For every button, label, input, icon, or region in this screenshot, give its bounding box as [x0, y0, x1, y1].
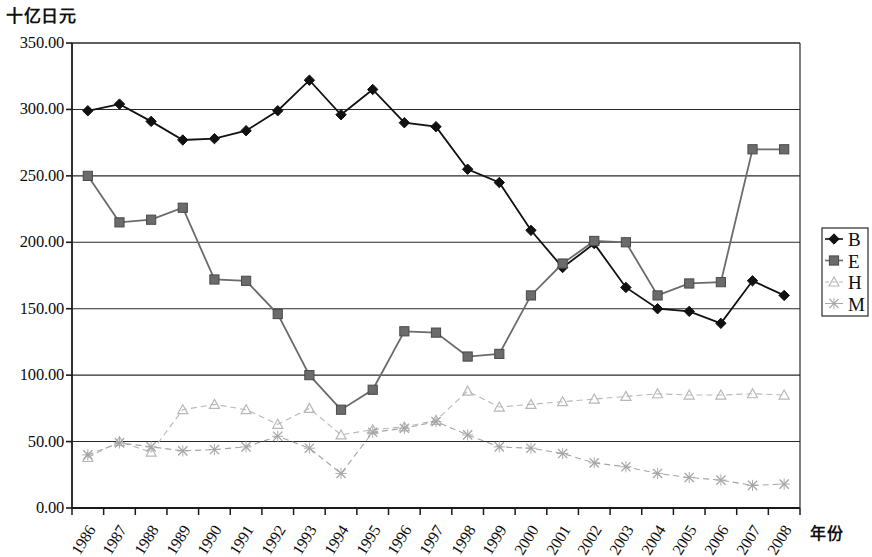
y-tick-label: 200.00	[0, 232, 64, 252]
y-tick-label: 300.00	[0, 99, 64, 119]
series-line	[88, 149, 784, 409]
data-point-x	[114, 437, 125, 448]
data-point-x	[747, 480, 758, 491]
data-point-x	[828, 298, 839, 309]
chart-container: 十亿日元 年份 350.00300.00250.00200.00150.0010…	[0, 0, 872, 557]
data-point-square	[780, 145, 789, 154]
data-point-square	[400, 327, 409, 336]
data-point-x	[240, 441, 251, 452]
data-point-diamond	[652, 304, 662, 314]
data-point-square	[431, 328, 440, 337]
data-point-x	[367, 427, 378, 438]
data-point-x	[82, 449, 93, 460]
data-point-x	[399, 423, 410, 434]
data-point-square	[685, 279, 694, 288]
data-point-square	[305, 371, 314, 380]
data-point-x	[146, 441, 157, 452]
series-line	[88, 422, 784, 486]
data-point-x	[684, 472, 695, 483]
data-point-x	[335, 468, 346, 479]
data-point-square	[495, 349, 504, 358]
data-point-x	[272, 431, 283, 442]
data-point-triangle	[748, 389, 758, 398]
data-point-square	[336, 405, 345, 414]
data-point-diamond	[241, 125, 251, 135]
data-point-square	[273, 309, 282, 318]
data-point-square	[590, 236, 599, 245]
x-axis-ticks	[72, 508, 800, 515]
data-point-x	[557, 448, 568, 459]
data-point-x	[779, 478, 790, 489]
data-point-square	[653, 291, 662, 300]
data-point-x	[589, 457, 600, 468]
data-point-diamond	[209, 133, 219, 143]
data-point-square	[241, 276, 250, 285]
data-point-x	[620, 461, 631, 472]
data-series	[82, 75, 790, 491]
data-point-square	[748, 145, 757, 154]
data-point-x	[652, 468, 663, 479]
data-point-square	[178, 203, 187, 212]
y-tick-label: 150.00	[0, 299, 64, 319]
data-point-square	[210, 275, 219, 284]
data-point-square	[558, 259, 567, 268]
data-point-x	[304, 443, 315, 454]
data-point-diamond	[494, 177, 504, 187]
data-point-diamond	[178, 135, 188, 145]
legend-label-B: B	[848, 230, 861, 249]
data-point-square	[147, 215, 156, 224]
chart-plot-svg	[0, 0, 872, 557]
data-point-diamond	[83, 106, 93, 116]
data-point-x	[177, 445, 188, 456]
data-point-diamond	[114, 99, 124, 109]
y-tick-label: 250.00	[0, 166, 64, 186]
data-point-square	[621, 238, 630, 247]
series-M	[82, 416, 790, 491]
data-point-x	[715, 475, 726, 486]
legend-label-E: E	[848, 252, 860, 271]
data-point-x	[462, 429, 473, 440]
y-tick-label: 350.00	[0, 33, 64, 53]
data-point-diamond	[684, 306, 694, 316]
gridlines	[72, 43, 800, 442]
series-E	[83, 145, 789, 415]
data-point-x	[525, 443, 536, 454]
legend-label-H: H	[848, 273, 862, 292]
plot-axes	[72, 43, 800, 508]
y-tick-label: 0.00	[0, 498, 64, 518]
data-point-x	[494, 441, 505, 452]
y-tick-label: 100.00	[0, 365, 64, 385]
data-point-x	[430, 416, 441, 427]
data-point-square	[368, 385, 377, 394]
data-point-square	[115, 218, 124, 227]
series-B	[83, 75, 790, 329]
data-point-square	[716, 278, 725, 287]
data-point-square	[83, 171, 92, 180]
data-point-diamond	[146, 116, 156, 126]
legend-label-M: M	[848, 295, 865, 314]
data-point-square	[526, 291, 535, 300]
data-point-square	[829, 256, 838, 265]
data-point-square	[463, 352, 472, 361]
data-point-x	[209, 444, 220, 455]
data-point-diamond	[779, 290, 789, 300]
y-tick-label: 50.00	[0, 432, 64, 452]
